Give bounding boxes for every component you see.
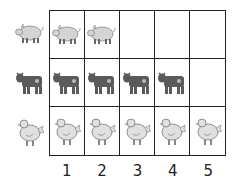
grid-cell [85, 107, 120, 155]
pictograph-grid [49, 10, 226, 156]
chicken-icon [123, 116, 151, 146]
chicken-icon [194, 116, 222, 146]
cow-icon [52, 70, 82, 96]
x-label: 4 [155, 160, 190, 182]
grid-cell [155, 11, 190, 59]
grid-cell [190, 107, 225, 155]
x-label: 1 [49, 160, 84, 182]
pig-icon [51, 24, 83, 46]
chicken-icon [53, 116, 81, 146]
pig-icon [86, 24, 118, 46]
cow-icon [157, 70, 187, 96]
x-label: 3 [120, 160, 155, 182]
grid-cell [190, 11, 225, 59]
grid-cell [50, 59, 85, 107]
x-label: 5 [191, 160, 226, 182]
chicken-icon [14, 116, 46, 148]
grid-cell [155, 107, 190, 155]
grid-cell [120, 59, 155, 107]
chicken-icon [88, 116, 116, 146]
grid-cell [190, 59, 225, 107]
cow-icon [14, 67, 46, 99]
grid-cell [50, 107, 85, 155]
pig-icon [14, 18, 46, 50]
grid-cell [155, 59, 190, 107]
grid-cell [120, 11, 155, 59]
cow-icon [122, 70, 152, 96]
x-label: 2 [84, 160, 119, 182]
x-axis-labels: 1 2 3 4 5 [49, 160, 226, 182]
grid-cell [120, 107, 155, 155]
chicken-icon [158, 116, 186, 146]
grid-cell [50, 11, 85, 59]
cow-icon [87, 70, 117, 96]
grid-cell [85, 11, 120, 59]
grid-cell [85, 59, 120, 107]
